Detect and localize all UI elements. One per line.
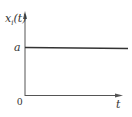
signal-line xyxy=(25,48,128,49)
x-axis-arrow-icon xyxy=(115,94,123,98)
y-axis-label: xi(t) xyxy=(5,13,26,27)
x-axis-label: t xyxy=(116,99,120,110)
level-label: a xyxy=(14,42,21,53)
step-signal-diagram: xi(t) a 0 t xyxy=(0,0,132,117)
origin-label: 0 xyxy=(17,96,23,107)
